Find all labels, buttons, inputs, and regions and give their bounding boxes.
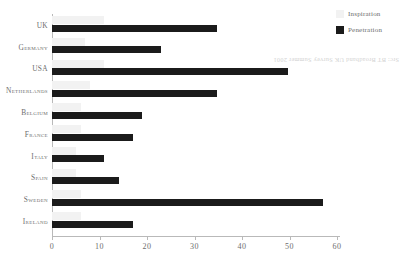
category-label: Sweden [24,195,48,204]
chart-row: Germany [52,36,337,58]
x-tick-label: 10 [95,242,104,251]
x-tick [290,236,291,240]
chart-row: Italy [52,145,337,167]
legend-label: Inspiration [348,10,381,18]
category-label: Italy [31,151,48,160]
bar-penetration [52,90,217,97]
light-swatch-icon [336,10,344,18]
x-tick-label: 30 [190,242,199,251]
x-axis-line [52,236,340,237]
dark-swatch-icon [336,26,344,34]
x-tick-label: 50 [285,242,294,251]
bar-penetration [52,46,161,53]
chart-row: Ireland [52,210,337,232]
bar-penetration [52,112,142,119]
legend-item: Penetration [336,26,400,34]
chart-row: Sweden [52,188,337,210]
x-tick-label: 0 [50,242,54,251]
bar-penetration [52,134,133,141]
bar-inspiration [52,103,81,111]
category-label: Netherlands [6,86,48,95]
chart-row: UK [52,14,337,36]
legend-item: Inspiration [336,10,400,18]
bar-inspiration [52,81,90,89]
category-label: France [25,129,48,138]
chart-row: Belgium [52,101,337,123]
bar-penetration [52,68,288,75]
chart-legend: InspirationPenetration [336,10,400,42]
category-label: Spain [31,173,48,182]
x-tick [52,236,53,240]
bar-penetration [52,221,133,228]
bar-inspiration [52,169,76,177]
x-tick [100,236,101,240]
source-note: Src: BT Broadband UK Survey Summer 2001 [273,57,399,64]
x-tick [147,236,148,240]
bar-inspiration [52,125,81,133]
bar-penetration [52,25,217,32]
legend-label: Penetration [348,26,382,34]
x-tick-label: 40 [238,242,247,251]
category-label: UK [37,20,48,29]
category-label: Ireland [23,217,48,226]
x-tick [242,236,243,240]
x-tick-label: 60 [333,242,342,251]
bar-inspiration [52,212,81,220]
x-tick [195,236,196,240]
category-label: Germany [19,42,48,51]
bar-inspiration [52,16,104,24]
bar-inspiration [52,38,85,46]
bar-penetration [52,199,323,206]
bar-chart: UKGermanyUSANetherlandsBelgiumFranceItal… [0,0,400,266]
chart-row: France [52,123,337,145]
bar-penetration [52,177,119,184]
plot-area: UKGermanyUSANetherlandsBelgiumFranceItal… [52,14,337,232]
chart-row: Spain [52,167,337,189]
category-label: Belgium [21,108,48,117]
x-tick-label: 20 [143,242,152,251]
chart-row: Netherlands [52,79,337,101]
x-tick [337,236,338,240]
bar-inspiration [52,190,81,198]
bar-inspiration [52,147,76,155]
bar-inspiration [52,60,104,68]
category-label: USA [32,64,48,73]
bar-penetration [52,155,104,162]
